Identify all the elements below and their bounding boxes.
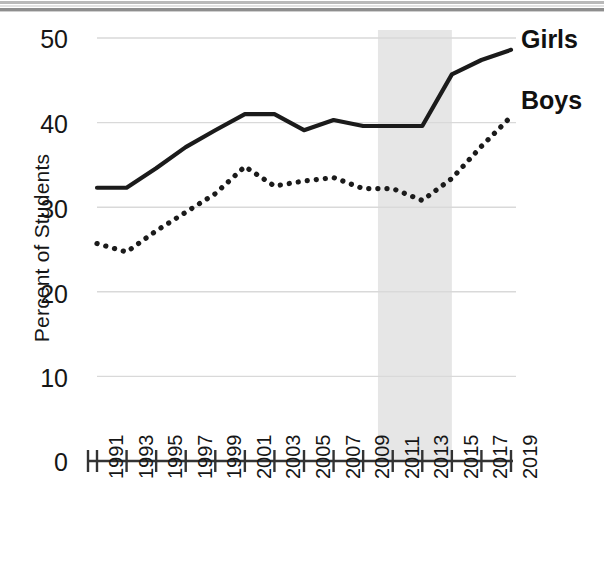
x-tick-label-2015: 2015: [460, 435, 483, 480]
x-tick-label-2009: 2009: [371, 435, 394, 480]
x-tick-label-1997: 1997: [194, 435, 217, 480]
gridlines: [97, 38, 516, 376]
x-tick-label-2019: 2019: [519, 435, 542, 480]
x-tick-label-1991: 1991: [105, 435, 128, 480]
x-tick-label-2007: 2007: [342, 435, 365, 480]
series-label-boys: Boys: [521, 86, 582, 115]
y-tick-label-50: 50: [14, 25, 68, 54]
x-tick-label-2017: 2017: [489, 435, 512, 480]
y-tick-label-10: 10: [14, 364, 68, 393]
y-tick-label-30: 30: [14, 195, 68, 224]
x-tick-label-1995: 1995: [164, 435, 187, 480]
x-tick-label-2011: 2011: [401, 436, 424, 479]
line-chart-figure: Percent of Students 50 40 30 20 10 0 199…: [0, 0, 604, 563]
series-label-girls: Girls: [521, 25, 578, 54]
y-tick-label-20: 20: [14, 280, 68, 309]
x-tick-label-1993: 1993: [135, 435, 158, 480]
y-tick-label-40: 40: [14, 110, 68, 139]
x-tick-label-2013: 2013: [430, 435, 453, 480]
y-tick-label-0: 0: [14, 448, 68, 477]
x-tick-label-1999: 1999: [223, 435, 246, 480]
x-tick-label-2001: 2001: [253, 435, 276, 480]
x-tick-label-2005: 2005: [312, 435, 335, 480]
x-tick-label-2003: 2003: [282, 435, 305, 480]
